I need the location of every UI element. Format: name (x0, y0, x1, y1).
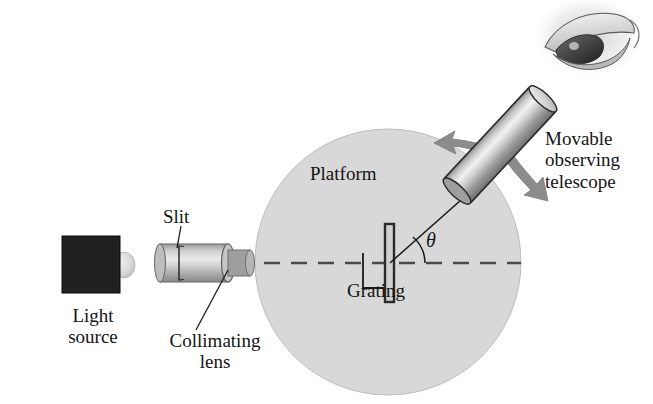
label-slit: Slit (163, 206, 189, 227)
label-collimating-lens: Collimating lens (140, 330, 290, 373)
tube-left-opening (155, 244, 166, 282)
label-platform: Platform (310, 163, 377, 184)
eye-illustration (534, 0, 642, 80)
collimating-tube (155, 244, 255, 282)
label-observing-telescope: Movable observing telescope (545, 128, 653, 192)
collimating-tube-body (160, 244, 228, 282)
slit-mark-tick-top (179, 246, 184, 247)
spectrometer-diagram: Platform Grating Slit θ Light source Col… (0, 0, 653, 404)
label-light-source: Light source (33, 305, 153, 348)
light-source (62, 236, 135, 293)
rotation-arrow-down (506, 155, 548, 201)
eye-highlight (569, 42, 579, 50)
label-angle-theta: θ (426, 229, 436, 251)
light-source-box (62, 236, 120, 293)
slit-mark-tick-bottom (179, 280, 184, 281)
label-grating: Grating (347, 280, 405, 301)
tube-stub-end (246, 250, 255, 276)
